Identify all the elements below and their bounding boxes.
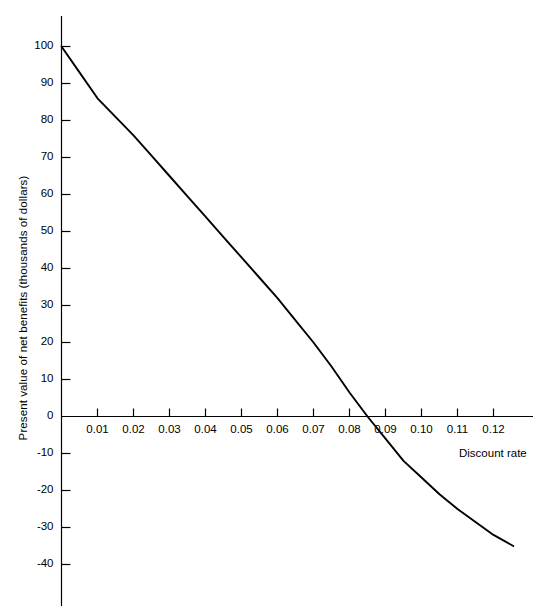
chart-plot-area (0, 0, 543, 616)
y-tick-label: 10 (14, 372, 54, 384)
x-tick-label: 0.03 (150, 423, 190, 435)
x-tick-label: 0.10 (402, 423, 442, 435)
x-tick-label: 0.04 (186, 423, 226, 435)
discount-rate-npv-chart: Present value of net benefits (thousands… (0, 0, 543, 616)
y-tick-label: 100 (14, 39, 54, 51)
y-axis-ticks (62, 47, 71, 565)
y-tick-label: 0 (14, 409, 54, 421)
x-axis-ticks (98, 409, 494, 417)
y-tick-label: -40 (14, 557, 54, 569)
y-tick-label: -30 (14, 520, 54, 532)
x-tick-label: 0.08 (330, 423, 370, 435)
y-tick-label: 60 (14, 187, 54, 199)
x-tick-label: 0.12 (474, 423, 514, 435)
x-tick-label: 0.05 (222, 423, 262, 435)
y-tick-label: -10 (14, 446, 54, 458)
y-tick-label: -20 (14, 483, 54, 495)
y-tick-label: 70 (14, 150, 54, 162)
y-tick-label: 50 (14, 224, 54, 236)
y-tick-label: 90 (14, 76, 54, 88)
y-tick-label: 80 (14, 113, 54, 125)
x-tick-label: 0.06 (258, 423, 298, 435)
x-tick-label: 0.09 (366, 423, 406, 435)
x-tick-label: 0.11 (438, 423, 478, 435)
npv-curve (62, 47, 514, 547)
x-tick-label: 0.07 (294, 423, 334, 435)
x-tick-label: 0.01 (78, 423, 118, 435)
y-tick-label: 40 (14, 261, 54, 273)
x-tick-label: 0.02 (114, 423, 154, 435)
y-tick-label: 20 (14, 335, 54, 347)
y-tick-label: 30 (14, 298, 54, 310)
x-axis-label: Discount rate (459, 447, 527, 459)
